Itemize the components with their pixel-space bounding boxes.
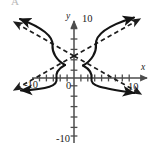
graph-canvas: -10 10 0 10 -10 x y: [0, 0, 157, 154]
hyperbola-right-branch: [83, 18, 134, 94]
x-positive-tick-label: 10: [128, 81, 139, 92]
x-axis-label: x: [140, 62, 146, 72]
y-axis-label: y: [65, 11, 71, 21]
hyperbola-figure: A: [0, 0, 157, 154]
y-negative-tick-label: -10: [56, 133, 70, 144]
origin-label: 0: [66, 80, 71, 91]
x-negative-tick-label: -10: [24, 79, 38, 90]
y-axis: [71, 21, 78, 143]
y-positive-tick-label: 10: [82, 13, 93, 24]
